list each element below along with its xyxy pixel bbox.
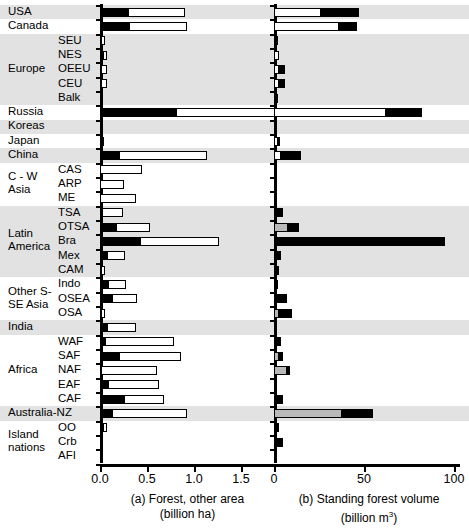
subregion-label-indo: Indo: [58, 277, 80, 290]
group-label-canada: Canada: [8, 19, 48, 32]
b-x-tick: [454, 467, 456, 472]
group-label-island-nations: Island: [8, 428, 39, 441]
group-label-india: India: [8, 320, 33, 333]
a-x-tick: [147, 467, 149, 472]
row-band-japan: [0, 134, 469, 148]
subregion-label-arp: ARP: [58, 177, 82, 190]
subregion-label-afi: AFI: [58, 449, 76, 462]
group-label-island-nations: nations: [8, 441, 45, 454]
subregion-label-balk: Balk: [58, 91, 80, 104]
subregion-label-me: ME: [58, 191, 75, 204]
subregion-label-saf: SAF: [58, 349, 80, 362]
group-label-russia: Russia: [8, 105, 43, 118]
row-band-canada: [0, 19, 469, 33]
group-label-koreas: Koreas: [8, 119, 44, 132]
b-x-tick-label: 0: [271, 472, 278, 486]
a-x-tick-label: 0.0: [91, 472, 108, 486]
group-label-china: China: [8, 148, 38, 161]
subregion-label-oeeu: OEEU: [58, 62, 91, 75]
panel-b-caption-line1: (b) Standing forest volume: [274, 492, 464, 507]
subregion-label-crb: Crb: [58, 435, 77, 448]
subregion-label-eaf: EAF: [58, 378, 80, 391]
row-band-india: [0, 320, 469, 334]
subregion-label-oo: OO: [58, 421, 76, 434]
subregion-label-otsa: OTSA: [58, 220, 89, 233]
a-x-tick: [194, 467, 196, 472]
a-x-tick-label: 0.5: [138, 472, 155, 486]
group-label-europe: Europe: [8, 62, 45, 75]
panel-a-caption-line1: (a) Forest, other area: [100, 492, 275, 507]
subregion-label-ceu: CEU: [58, 77, 82, 90]
row-band-china: [0, 148, 469, 162]
row-band-russia: [0, 105, 469, 119]
subregion-label-osa: OSA: [58, 306, 82, 319]
panel-a-caption: (a) Forest, other area(billion ha): [100, 492, 275, 522]
group-label-c-w-asia: Asia: [8, 183, 30, 196]
b-x-tick-label: 100: [444, 472, 465, 486]
subregion-label-caf: CAF: [58, 392, 81, 405]
subregion-label-naf: NAF: [58, 363, 81, 376]
b-x-axis: [274, 464, 460, 467]
subregion-label-mex: Mex: [58, 249, 80, 262]
subregion-label-tsa: TSA: [58, 206, 80, 219]
subregion-label-bra: Bra: [58, 234, 76, 247]
row-band-koreas: [0, 120, 469, 134]
a-x-axis: [100, 464, 275, 467]
a-x-tick-label: 1.0: [185, 472, 202, 486]
group-label-usa: USA: [8, 5, 32, 18]
row-band-usa: [0, 5, 469, 19]
subregion-label-cas: CAS: [58, 163, 82, 176]
subregion-label-osea: OSEA: [58, 292, 90, 305]
b-x-tick: [364, 467, 366, 472]
b-x-tick: [274, 467, 276, 472]
a-row-tick: [96, 464, 100, 466]
group-label-other-s-se-asia: Other S-: [8, 285, 51, 298]
a-x-tick: [241, 467, 243, 472]
subregion-label-nes: NES: [58, 48, 82, 61]
b-row-tick: [270, 464, 274, 466]
group-label-australia-nz: Australia-NZ: [8, 406, 72, 419]
group-label-africa: Africa: [8, 363, 37, 376]
figure-root: USACanadaEuropeSEUNESOEEUCEUBalkRussiaKo…: [0, 0, 469, 529]
group-label-c-w-asia: C - W: [8, 170, 37, 183]
group-label-latin-america: America: [8, 240, 50, 253]
panel-a-caption-line2: (billion ha): [100, 507, 275, 522]
group-label-latin-america: Latin: [8, 227, 33, 240]
subregion-label-cam: CAM: [58, 263, 84, 276]
a-x-tick: [100, 467, 102, 472]
subregion-label-waf: WAF: [58, 335, 83, 348]
group-label-japan: Japan: [8, 134, 39, 147]
panel-b-caption-line2: (billion m3): [274, 507, 464, 526]
group-label-other-s-se-asia: SE Asia: [8, 298, 48, 311]
b-x-tick-label: 50: [357, 472, 371, 486]
a-x-tick-label: 1.5: [232, 472, 249, 486]
panel-b-caption: (b) Standing forest volume(billion m3): [274, 492, 464, 526]
subregion-label-seu: SEU: [58, 34, 82, 47]
